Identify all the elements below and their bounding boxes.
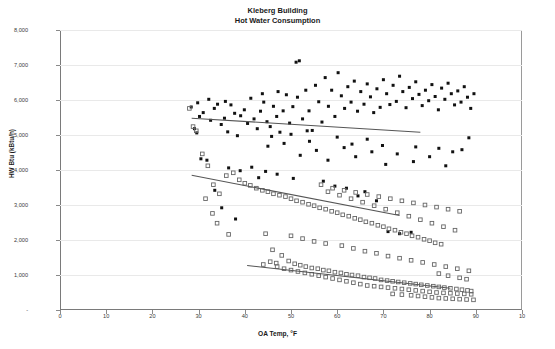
- y-tickmark: [56, 30, 60, 31]
- x-tick-label: 60: [322, 313, 352, 319]
- x-tick-label: 30: [184, 313, 214, 319]
- chart-title-line-1: Kleberg Building: [0, 6, 555, 16]
- gridline: [60, 100, 522, 101]
- gridline: [60, 65, 522, 66]
- x-tick-label: 50: [276, 313, 306, 319]
- x-tick-label: 40: [230, 313, 260, 319]
- y-tick-label: 1,000: [0, 272, 28, 278]
- y-tick-label: 2,000: [0, 237, 28, 243]
- chart-title-line-2: Hot Water Consumption: [0, 16, 555, 26]
- gridline: [60, 135, 522, 136]
- gridline: [60, 30, 522, 31]
- y-tickmark: [56, 205, 60, 206]
- y-tickmark: [56, 135, 60, 136]
- y-tickmark: [56, 100, 60, 101]
- x-tick-label: 90: [461, 313, 491, 319]
- chart-container: Kleberg Building Hot Water Consumption -…: [0, 0, 555, 349]
- x-axis-label: OA Temp, °F: [0, 330, 555, 337]
- gridline: [60, 170, 522, 171]
- gridline: [60, 240, 522, 241]
- y-tick-label: 7,000: [0, 62, 28, 68]
- y-tickmark: [56, 170, 60, 171]
- chart-title: Kleberg Building Hot Water Consumption: [0, 6, 555, 26]
- y-tickmark: [56, 240, 60, 241]
- x-tick-label: 80: [415, 313, 445, 319]
- gridline: [60, 205, 522, 206]
- x-tick-label: 10: [91, 313, 121, 319]
- y-tick-label: 8,000: [0, 27, 28, 33]
- y-tickmark: [56, 275, 60, 276]
- y-tick-label: -: [0, 307, 28, 313]
- gridline: [60, 275, 522, 276]
- x-tick-label: 20: [137, 313, 167, 319]
- y-tickmark: [56, 65, 60, 66]
- x-tick-label: 10: [507, 313, 537, 319]
- y-axis-label: HW Btu (kBtu/h): [8, 99, 15, 209]
- x-tick-label: 0: [45, 313, 75, 319]
- x-tick-label: 70: [368, 313, 398, 319]
